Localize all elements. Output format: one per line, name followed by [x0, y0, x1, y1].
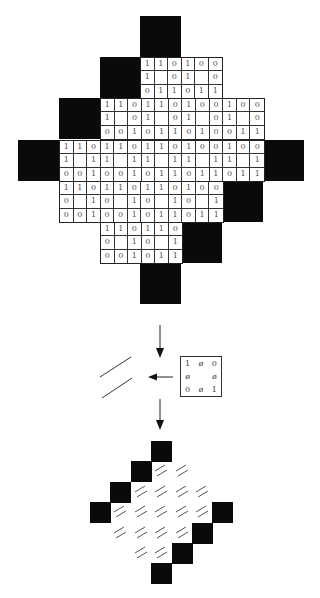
bit-cell: 0	[142, 236, 156, 249]
bit-cell: 1	[74, 182, 88, 195]
bit-cell: 0	[169, 182, 183, 195]
black-block	[100, 57, 141, 98]
bit-cell	[155, 154, 169, 167]
bit-cell: 0	[196, 182, 210, 195]
bit-cell: 0	[60, 168, 74, 181]
bit-cell: 1	[196, 168, 210, 181]
hatch-icon	[131, 482, 151, 502]
bit-cell: 0	[182, 168, 196, 181]
bit-cell: 1	[250, 126, 264, 139]
black-block	[140, 263, 181, 304]
kernel-cell: ø	[194, 357, 207, 370]
bit-cell: 1	[155, 209, 169, 222]
bit-cell: 1	[142, 141, 156, 154]
bit-cell: 1	[169, 236, 183, 249]
bit-cell: 0	[115, 250, 129, 263]
bit-band: 1101001010011011	[140, 57, 223, 99]
hatch-icon	[131, 543, 151, 563]
arrows-and-slashes	[0, 310, 320, 445]
bit-cell: 0	[141, 195, 155, 208]
bit-cell: 1	[74, 141, 88, 154]
bit-cell: 0	[101, 236, 115, 249]
bit-cell: 1	[182, 182, 196, 195]
bit-cell: 1	[115, 223, 129, 236]
hatch-icon	[172, 502, 192, 522]
bit-cell: 0	[182, 85, 196, 98]
black-block	[18, 140, 59, 181]
bit-cell: 0	[87, 182, 101, 195]
bit-cell: 1	[209, 209, 223, 222]
bit-cell: 1	[182, 58, 196, 71]
arrow-down-icon	[156, 325, 164, 358]
bit-cell: 1	[101, 141, 115, 154]
bit-cell: 1	[196, 209, 210, 222]
bit-cell: 0	[60, 195, 74, 208]
bit-cell: 1	[237, 126, 251, 139]
bit-cell: 1	[155, 99, 169, 112]
bit-cell: 0	[169, 141, 183, 154]
bit-cell: 1	[60, 141, 74, 154]
bit-cell: 0	[101, 250, 115, 263]
hatch-icon	[172, 461, 192, 481]
bit-cell: 1	[223, 112, 237, 125]
bit-cell: 0	[209, 58, 223, 71]
bit-cell: 1	[155, 223, 169, 236]
bit-cell: 0	[250, 141, 264, 154]
bit-cell: 1	[250, 154, 264, 167]
bit-cell: 0	[196, 99, 210, 112]
bit-cell: 1	[101, 112, 115, 125]
bit-cell: 1	[168, 85, 182, 98]
kernel-cell: 1	[181, 357, 194, 370]
hatch-icon	[131, 502, 151, 522]
bit-cell: 1	[101, 223, 115, 236]
arrow-down-icon	[156, 399, 164, 430]
bit-cell: 0	[60, 209, 74, 222]
bit-cell: 0	[182, 195, 196, 208]
bit-cell: 0	[142, 250, 156, 263]
bit-cell: 0	[101, 126, 115, 139]
bit-cell: 1	[210, 168, 224, 181]
bit-cell: 1	[128, 168, 142, 181]
bit-cell	[155, 112, 169, 125]
bit-cell: 1	[142, 112, 156, 125]
hatch-icon	[151, 523, 171, 543]
bit-cell: 0	[128, 99, 142, 112]
bit-cell: 1	[128, 250, 142, 263]
bit-cell	[115, 112, 129, 125]
bit-cell: 1	[223, 99, 237, 112]
bit-cell: 1	[155, 250, 169, 263]
kernel-cell: ø	[181, 370, 194, 383]
bit-cell: 0	[115, 126, 129, 139]
bit-cell: 1	[155, 126, 169, 139]
hatch-icon	[192, 502, 212, 522]
black-block	[222, 181, 263, 222]
bit-cell: 0	[210, 141, 224, 154]
bit-cell: 0	[210, 99, 224, 112]
bit-cell: 0	[87, 141, 101, 154]
bit-cell: 1	[210, 154, 224, 167]
bit-cell: 0	[195, 58, 209, 71]
bit-cell: 0	[142, 126, 156, 139]
bit-cell: 1	[141, 182, 155, 195]
bit-band: 11011010010010101010001011010011	[100, 98, 265, 140]
bit-cell: 0	[114, 168, 128, 181]
bit-cell: 0	[128, 141, 142, 154]
bit-cell: 1	[182, 141, 196, 154]
bit-cell: 0	[182, 126, 196, 139]
bit-cell: 1	[101, 182, 115, 195]
hatch-icon	[151, 482, 171, 502]
hatch-icon	[192, 482, 212, 502]
bit-cell: 0	[210, 112, 224, 125]
bit-cell: 1	[182, 71, 196, 84]
bit-cell: 0	[114, 209, 128, 222]
bit-cell: 1	[155, 85, 169, 98]
hatch-icon	[151, 502, 171, 522]
bit-cell: 1	[60, 182, 74, 195]
kernel-cell: 1	[208, 383, 221, 396]
black-block	[140, 16, 181, 57]
hatch-icon	[131, 523, 151, 543]
bit-cell: 1	[155, 182, 169, 195]
black-cell	[110, 482, 131, 503]
arrow-left-icon	[148, 374, 173, 381]
bit-cell: 1	[114, 182, 128, 195]
